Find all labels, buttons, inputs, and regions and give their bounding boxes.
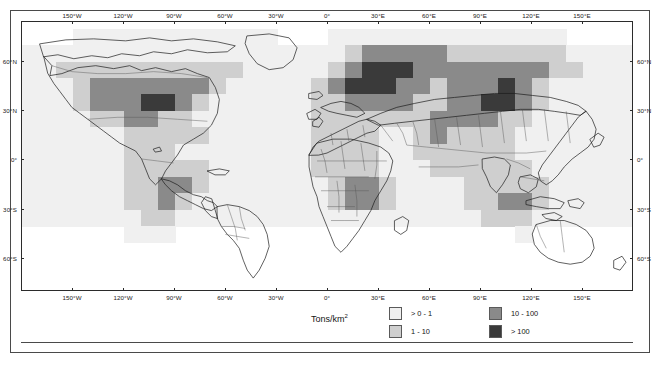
latitude-tick-label-left: 0° <box>0 156 17 163</box>
latitude-tick-mark <box>630 209 633 210</box>
latitude-tick-label-right: 0° <box>637 156 643 163</box>
legend-title-superscript: 2 <box>345 313 348 319</box>
longitude-tick-mark <box>327 21 328 24</box>
longitude-tick-label-top: 90°E <box>473 12 487 19</box>
latitude-tick-label-right: 30°S <box>637 205 651 212</box>
longitude-tick-label-top: 30°E <box>371 12 385 19</box>
longitude-tick-mark <box>582 288 583 291</box>
longitude-tick-mark <box>480 21 481 24</box>
longitude-tick-label-bottom: 120°E <box>522 294 539 301</box>
longitude-tick-mark <box>225 288 226 291</box>
longitude-tick-mark <box>72 21 73 24</box>
longitude-tick-mark <box>174 21 175 24</box>
legend-swatch-0 <box>389 307 402 320</box>
longitude-tick-label-bottom: 60°W <box>217 294 233 301</box>
legend-divider <box>21 342 633 343</box>
latitude-tick-mark <box>21 209 24 210</box>
map-legend: Tons/km2 > 0 - 1 1 - 10 10 - 100 > 100 <box>21 301 633 343</box>
longitude-tick-label-bottom: 0° <box>324 294 330 301</box>
longitude-tick-label-top: 0° <box>324 12 330 19</box>
longitude-tick-mark <box>123 288 124 291</box>
longitude-tick-mark <box>276 21 277 24</box>
longitude-tick-mark <box>378 21 379 24</box>
latitude-tick-mark <box>630 61 633 62</box>
latitude-tick-label-left: 30°S <box>0 205 17 212</box>
longitude-tick-label-bottom: 150°E <box>573 294 590 301</box>
longitude-tick-label-top: 150°W <box>62 12 81 19</box>
latitude-tick-mark <box>21 258 24 259</box>
longitude-tick-mark <box>531 21 532 24</box>
longitude-tick-mark <box>174 288 175 291</box>
longitude-tick-label-bottom: 120°W <box>113 294 132 301</box>
longitude-tick-mark <box>276 288 277 291</box>
legend-label-3: > 100 <box>511 327 530 336</box>
legend-title-text: Tons/km <box>311 314 345 324</box>
latitude-tick-mark <box>21 61 24 62</box>
legend-title: Tons/km2 <box>311 313 348 324</box>
longitude-tick-label-top: 120°W <box>113 12 132 19</box>
longitude-tick-label-bottom: 30°E <box>371 294 385 301</box>
latitude-tick-label-left: 60°N <box>0 57 17 64</box>
longitude-tick-mark <box>480 288 481 291</box>
longitude-tick-mark <box>429 288 430 291</box>
legend-swatch-1 <box>389 325 402 338</box>
latitude-tick-label-right: 60°S <box>637 255 651 262</box>
latitude-tick-mark <box>21 159 24 160</box>
legend-label-2: 10 - 100 <box>511 309 538 318</box>
latitude-tick-label-left: 30°N <box>0 106 17 113</box>
longitude-tick-label-top: 30°W <box>268 12 284 19</box>
longitude-tick-label-bottom: 150°W <box>62 294 81 301</box>
longitude-tick-label-bottom: 60°E <box>422 294 436 301</box>
latitude-tick-mark <box>630 258 633 259</box>
latitude-tick-label-left: 60°S <box>0 255 17 262</box>
legend-swatch-3 <box>489 325 502 338</box>
longitude-tick-mark <box>429 21 430 24</box>
longitude-tick-mark <box>531 288 532 291</box>
longitude-tick-label-bottom: 90°E <box>473 294 487 301</box>
latitude-tick-mark <box>21 110 24 111</box>
longitude-tick-mark <box>582 21 583 24</box>
longitude-tick-label-top: 90°W <box>166 12 182 19</box>
latitude-tick-mark <box>630 159 633 160</box>
longitude-tick-mark <box>123 21 124 24</box>
longitude-tick-label-top: 150°E <box>573 12 590 19</box>
longitude-tick-mark <box>225 21 226 24</box>
longitude-tick-mark <box>378 288 379 291</box>
longitude-tick-label-bottom: 30°W <box>268 294 284 301</box>
figure-frame: 150°W150°W120°W120°W90°W90°W60°W60°W30°W… <box>10 10 650 353</box>
latitude-tick-mark <box>630 110 633 111</box>
longitude-tick-mark <box>327 288 328 291</box>
longitude-tick-label-bottom: 90°W <box>166 294 182 301</box>
longitude-tick-label-top: 60°W <box>217 12 233 19</box>
legend-label-1: 1 - 10 <box>411 327 430 336</box>
latitude-tick-label-right: 60°N <box>637 57 651 64</box>
legend-swatch-2 <box>489 307 502 320</box>
longitude-tick-label-top: 60°E <box>422 12 436 19</box>
legend-label-0: > 0 - 1 <box>411 309 432 318</box>
coastline-layer <box>22 22 632 290</box>
map-panel[interactable] <box>21 21 633 291</box>
longitude-tick-label-top: 120°E <box>522 12 539 19</box>
longitude-tick-mark <box>72 288 73 291</box>
latitude-tick-label-right: 30°N <box>637 106 651 113</box>
